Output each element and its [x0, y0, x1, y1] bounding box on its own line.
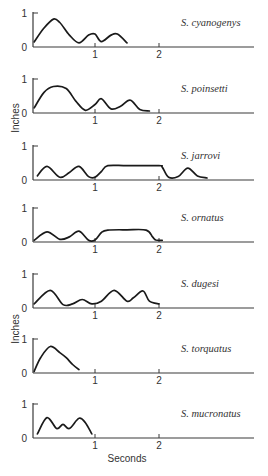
- x-tick-label: 2: [156, 375, 162, 386]
- x-tick-label: 2: [156, 310, 162, 321]
- y-tick-label-0: 0: [21, 433, 27, 444]
- y-axis-label-bottom: Inches: [10, 314, 21, 343]
- species-label: S. poinsetti: [181, 83, 228, 94]
- x-tick-label: 2: [156, 49, 162, 60]
- y-tick-label-1: 1: [21, 269, 27, 280]
- species-label: S. jarrovi: [181, 150, 220, 161]
- display-curve: [34, 86, 149, 111]
- display-curve: [34, 229, 162, 241]
- y-tick-label-0: 0: [21, 303, 27, 314]
- panel-s-mucronatus: 1201S. mucronatus: [21, 399, 254, 452]
- y-tick-label-1: 1: [21, 74, 27, 85]
- display-patterns-figure: 1201S. cyanogenys1201S. poinsetti1201S. …: [0, 0, 268, 476]
- display-curve: [37, 418, 91, 434]
- panel-s-cyanogenys: 1201S. cyanogenys: [21, 8, 254, 61]
- x-tick-label: 2: [156, 182, 162, 193]
- panel-s-torquatus: 1201S. torquatus: [21, 334, 254, 387]
- y-tick-label-1: 1: [21, 8, 27, 19]
- y-tick-label-1: 1: [21, 203, 27, 214]
- panel-s-dugesi: 1201S. dugesi: [21, 269, 254, 322]
- display-curve: [34, 19, 127, 43]
- panel-s-jarrovi: 1201S. jarrovi: [21, 141, 254, 194]
- species-label: S. cyanogenys: [181, 17, 240, 28]
- y-tick-label-0: 0: [21, 108, 27, 119]
- species-label: S. torquatus: [181, 343, 231, 354]
- x-tick-label: 1: [92, 115, 98, 126]
- y-tick-label-0: 0: [21, 42, 27, 53]
- x-tick-label: 1: [92, 310, 98, 321]
- y-tick-label-0: 0: [21, 368, 27, 379]
- y-tick-label-0: 0: [21, 237, 27, 248]
- y-tick-label-1: 1: [21, 141, 27, 152]
- x-tick-label: 1: [92, 182, 98, 193]
- x-tick-label: 1: [92, 440, 98, 451]
- x-tick-label: 1: [92, 375, 98, 386]
- y-tick-label-0: 0: [21, 175, 27, 186]
- species-label: S. mucronatus: [181, 408, 241, 419]
- panel-s-ornatus: 1201S. ornatus: [21, 203, 254, 256]
- y-axis-label-top: Inches: [10, 103, 21, 132]
- display-curve: [37, 165, 207, 178]
- x-axis-label: Seconds: [108, 453, 147, 464]
- display-curve: [34, 346, 79, 371]
- x-tick-label: 2: [156, 440, 162, 451]
- x-tick-label: 1: [92, 49, 98, 60]
- species-label: S. ornatus: [181, 212, 224, 223]
- display-curve: [34, 290, 159, 305]
- x-tick-label: 1: [92, 244, 98, 255]
- species-label: S. dugesi: [181, 278, 219, 289]
- panels-group: 1201S. cyanogenys1201S. poinsetti1201S. …: [21, 8, 254, 452]
- x-tick-label: 2: [156, 244, 162, 255]
- y-tick-label-1: 1: [21, 334, 27, 345]
- panel-s-poinsetti: 1201S. poinsetti: [21, 74, 254, 127]
- x-tick-label: 2: [156, 115, 162, 126]
- y-tick-label-1: 1: [21, 399, 27, 410]
